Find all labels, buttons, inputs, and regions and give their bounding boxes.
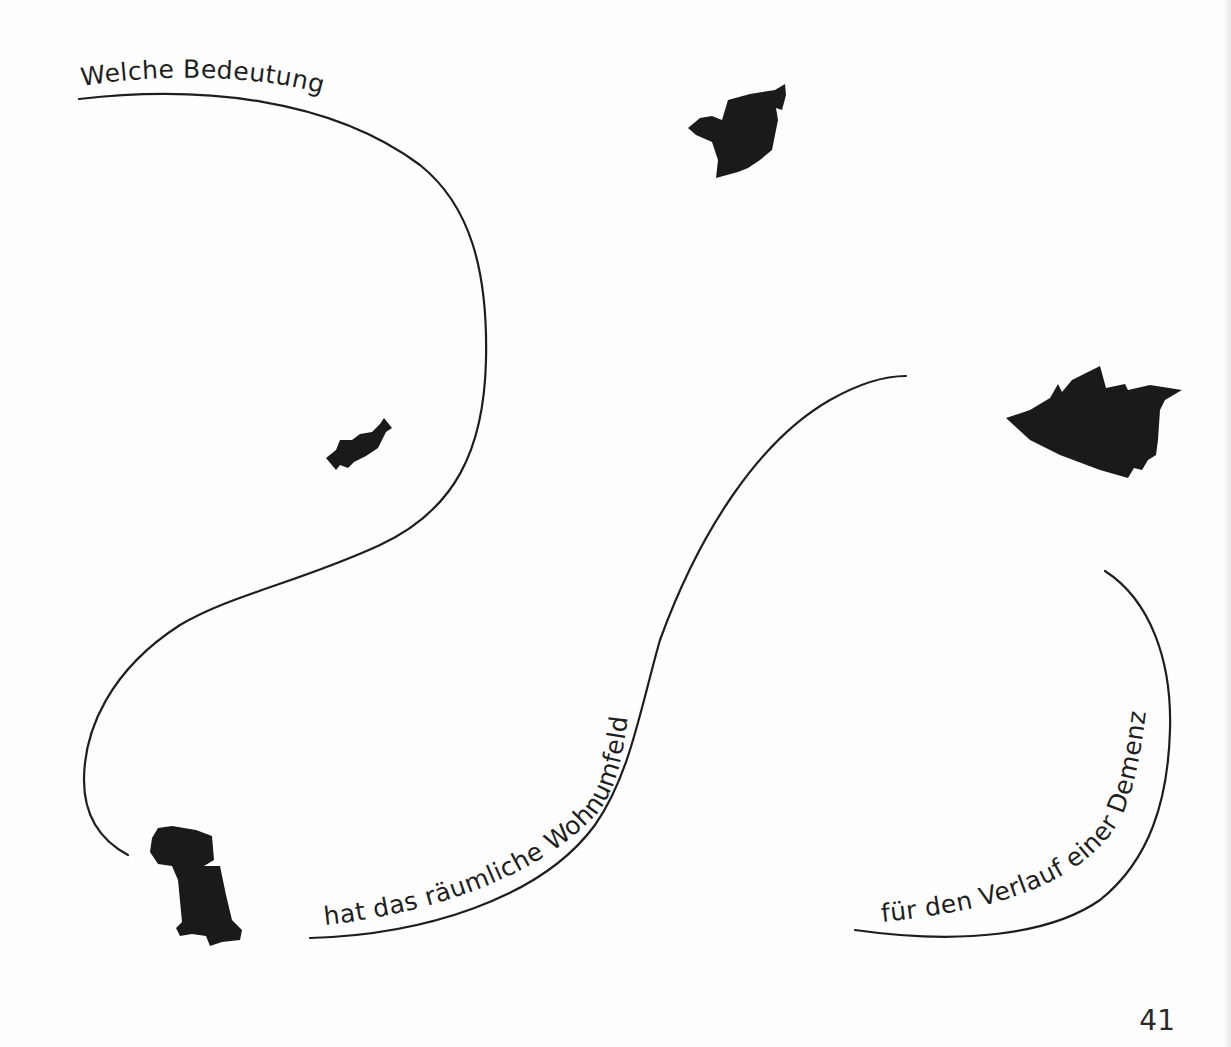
curve-line-1 bbox=[79, 94, 486, 855]
curve-line-2 bbox=[310, 376, 906, 938]
page-edge-shadow bbox=[1223, 0, 1231, 1047]
page-number: 41 bbox=[1139, 1004, 1175, 1037]
book-page: Welche Bedeutung hat das räumliche Wohnu… bbox=[0, 0, 1231, 1047]
illustration: Welche Bedeutung hat das räumliche Wohnu… bbox=[0, 0, 1231, 1047]
question-segment-2: hat das räumliche Wohnumfeld bbox=[322, 714, 633, 931]
question-segment-3: für den Verlauf einer Demenz ? bbox=[0, 0, 1152, 928]
question-segment-1: Welche Bedeutung bbox=[79, 55, 328, 100]
map-shape-bottom-left bbox=[150, 826, 242, 946]
map-shape-left-small bbox=[326, 418, 392, 470]
map-shape-top-center bbox=[688, 84, 786, 178]
map-shape-right bbox=[1006, 366, 1182, 478]
